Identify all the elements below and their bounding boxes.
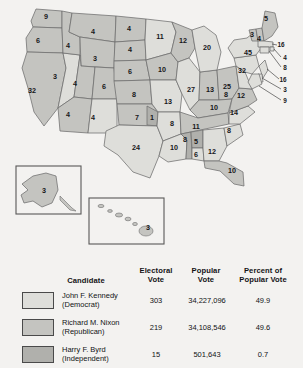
state-votes-wy: 3 — [93, 54, 97, 63]
legend-color-swatch — [22, 292, 54, 309]
percent-popular-vote-cell: 49.6 — [232, 323, 294, 332]
header-line-1: Popular — [192, 266, 221, 275]
electoral-vote-cell: 219 — [132, 323, 180, 332]
candidate-name-cell: John F. Kennedy (Democrat) — [62, 291, 140, 310]
candidate-name-cell: Richard M. Nixon (Republican) — [62, 318, 140, 337]
state-votes-ny: 45 — [244, 48, 252, 57]
header-line-2: Popular Vote — [239, 275, 286, 284]
header-line-2: Vote — [148, 275, 164, 284]
state-votes-tx: 24 — [132, 143, 140, 152]
state-votes-ky: 10 — [210, 103, 218, 112]
callout-votes-ri: 4 — [283, 54, 287, 61]
callout-votes-md: 9 — [283, 97, 287, 104]
column-header-electoral-vote: Electoral Vote — [132, 266, 180, 284]
legend-table: Candidate Electoral Vote Popular Vote Pe… — [0, 247, 303, 368]
state-votes-me: 5 — [264, 14, 268, 23]
state-votes-nv: 3 — [53, 72, 57, 81]
state-wyoming — [80, 37, 115, 68]
column-header-candidate: Candidate — [40, 276, 132, 285]
map-panel: 9632344344464468712411101381012271320251… — [0, 0, 303, 247]
state-votes-tn: 11 — [192, 122, 200, 131]
state-votes-mo: 13 — [164, 97, 172, 106]
candidate-name: Richard M. Nixon — [62, 318, 120, 327]
popular-vote-cell: 34,227,096 — [180, 296, 234, 305]
state-nebraska — [114, 60, 150, 81]
state-votes-nc: 14 — [230, 108, 238, 117]
state-votes-az: 4 — [66, 110, 70, 119]
state-votes-nm: 4 — [91, 113, 95, 122]
candidate-party: (Republican) — [62, 327, 140, 336]
state-votes-mt: 4 — [91, 27, 95, 36]
state-votes-ks: 8 — [132, 90, 136, 99]
state-votes-ca: 32 — [28, 86, 36, 95]
column-header-percent-popular-vote: Percent of Popular Vote — [228, 266, 298, 284]
state-votes-mi: 20 — [203, 43, 211, 52]
state-votes-sd: 4 — [128, 45, 132, 54]
state-georgia — [203, 128, 227, 161]
state-votes-in: 13 — [206, 85, 214, 94]
percent-popular-vote-cell: 0.7 — [232, 350, 294, 359]
callout-votes-ct: 8 — [283, 64, 287, 71]
state-votes-fl: 10 — [228, 166, 236, 175]
state-votes-co: 6 — [102, 82, 106, 91]
state-votes-va: 12 — [237, 91, 245, 100]
candidate-name: Harry F. Byrd — [62, 345, 106, 354]
callout-votes-nj: 16 — [279, 76, 287, 83]
state-connecticut — [260, 47, 269, 53]
state-votes-ok2: 1 — [150, 113, 154, 122]
inset-votes-ak: 3 — [42, 186, 46, 195]
callout-vote-labels: 16481639 — [277, 41, 287, 104]
header-line-1: Percent of — [244, 266, 282, 275]
us-electoral-map: 9632344344464468712411101381012271320251… — [0, 0, 303, 247]
state-votes-il: 27 — [187, 85, 195, 94]
state-votes-wa: 9 — [44, 12, 48, 21]
alaska-inset — [16, 166, 81, 214]
state-votes-wi: 12 — [179, 36, 187, 45]
state-votes-ms: 8 — [183, 135, 187, 144]
percent-popular-vote-cell: 49.9 — [232, 296, 294, 305]
state-votes-ia: 10 — [158, 65, 166, 74]
state-votes-or: 6 — [36, 36, 40, 45]
callout-votes-de: 3 — [283, 86, 287, 93]
candidate-name-cell: Harry F. Byrd (Independent) — [62, 345, 140, 364]
column-header-popular-vote: Popular Vote — [180, 266, 232, 284]
state-votes-mn: 11 — [156, 32, 164, 41]
legend-row: John F. Kennedy (Democrat) 303 34,227,09… — [0, 291, 303, 316]
popular-vote-cell: 501,643 — [180, 350, 234, 359]
candidate-party: (Democrat) — [62, 300, 140, 309]
hawaii-inset — [89, 198, 164, 244]
candidate-name: John F. Kennedy — [62, 291, 118, 300]
state-votes-id: 4 — [66, 41, 70, 50]
state-votes-wv: 8 — [224, 90, 228, 99]
legend-color-swatch — [22, 319, 54, 336]
election-map-figure: 9632344344464468712411101381012271320251… — [0, 0, 303, 368]
header-line-1: Electoral — [140, 266, 173, 275]
state-votes-ar: 8 — [170, 119, 174, 128]
state-votes-pa: 32 — [238, 66, 246, 75]
state-votes-nh: 4 — [257, 34, 261, 43]
state-votes-ne: 6 — [128, 67, 132, 76]
header-line-2: Vote — [198, 275, 214, 284]
state-rhodeisland — [270, 47, 274, 51]
state-votes-sc: 8 — [227, 126, 231, 135]
state-votes-al: 5 — [194, 137, 198, 146]
state-votes-ut: 4 — [73, 79, 77, 88]
state-votes-vt: 3 — [250, 30, 254, 39]
state-votes-ok: 7 — [135, 113, 139, 122]
legend-color-swatch — [22, 346, 54, 363]
state-votes-la: 10 — [170, 143, 178, 152]
inset-votes-hi: 3 — [146, 223, 150, 232]
legend-row: Harry F. Byrd (Independent) 15 501,643 0… — [0, 345, 303, 368]
state-oregon — [26, 27, 63, 53]
legend-row: Richard M. Nixon (Republican) 219 34,108… — [0, 318, 303, 343]
electoral-vote-cell: 303 — [132, 296, 180, 305]
state-florida — [204, 161, 244, 186]
electoral-vote-cell: 15 — [132, 350, 180, 359]
state-votes-nd: 4 — [127, 24, 131, 33]
candidate-party: (Independent) — [62, 354, 140, 363]
state-votes-ga: 12 — [208, 147, 216, 156]
callout-votes-ma: 16 — [277, 41, 285, 48]
popular-vote-cell: 34,108,546 — [180, 323, 234, 332]
state-votes-al2: 6 — [194, 150, 198, 159]
